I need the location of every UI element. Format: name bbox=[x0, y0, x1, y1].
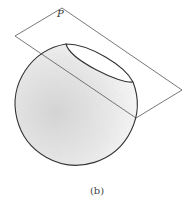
sphere-plane-diagram bbox=[0, 0, 194, 202]
figure-caption: (b) bbox=[0, 185, 194, 196]
plane-label: P bbox=[57, 8, 64, 19]
sphere-shading bbox=[10, 40, 140, 172]
